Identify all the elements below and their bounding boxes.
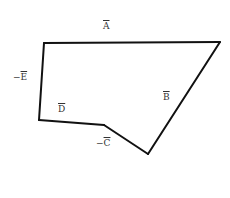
label-d-letter: D [58, 104, 65, 114]
label-vector-a: A [103, 22, 110, 31]
label-a-letter: A [103, 21, 110, 31]
label-vector-b: B [163, 93, 170, 102]
label-vector-neg-e: −E [13, 73, 27, 82]
vector-e-edge [39, 43, 44, 120]
vector-polygon-diagram [0, 0, 230, 198]
label-vector-neg-c: −C [96, 139, 110, 148]
vector-a-edge [44, 42, 220, 43]
label-vector-d: D [58, 105, 65, 114]
label-c-sign: − [96, 138, 104, 148]
vector-c-edge [104, 125, 148, 154]
vector-d-edge [39, 120, 104, 125]
label-c-letter: C [104, 138, 111, 148]
label-e-letter: E [21, 72, 28, 82]
label-e-sign: − [13, 72, 21, 82]
label-b-letter: B [163, 92, 170, 102]
vector-b-edge [148, 42, 220, 154]
